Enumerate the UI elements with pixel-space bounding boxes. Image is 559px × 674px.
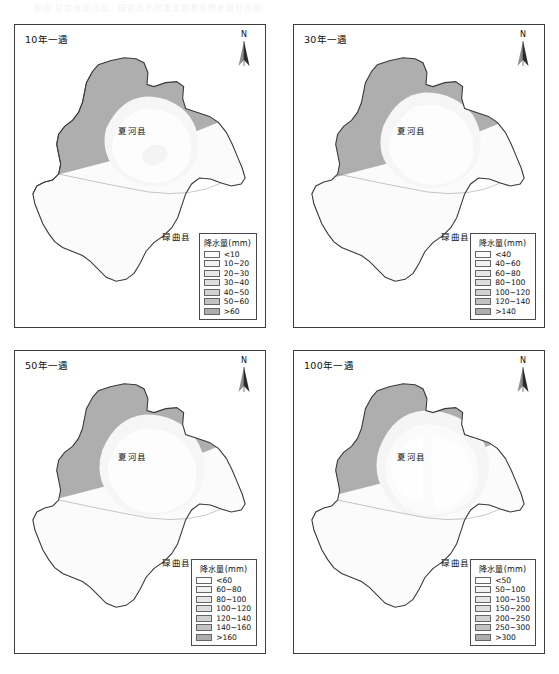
north-arrow-icon xyxy=(516,366,530,394)
legend-swatch xyxy=(475,298,491,305)
legend-row: >300 xyxy=(475,633,530,642)
legend-row: <50 xyxy=(475,576,530,585)
legend-label: 100~120 xyxy=(495,288,530,297)
legend-label: 140~160 xyxy=(216,623,251,632)
legend-row: >140 xyxy=(475,307,530,316)
legend-swatch xyxy=(196,605,212,612)
legend-label: 80~100 xyxy=(216,595,246,604)
legend-title: 降水量(mm) xyxy=(475,237,530,248)
legend-label: 20~30 xyxy=(224,269,249,278)
legend-swatch xyxy=(475,279,491,286)
legend-label: >300 xyxy=(495,633,515,642)
legend-swatch xyxy=(475,615,491,622)
legend-label: >140 xyxy=(495,307,515,316)
legend-swatch xyxy=(475,586,491,593)
legend-row: 20~30 xyxy=(204,269,251,278)
legend-swatch xyxy=(204,270,220,277)
map-panel-30yr[interactable]: 30年一遇 N 夏河县 碌曲县 降水量(mm) <40 40~60 60~80 … xyxy=(293,24,545,328)
legend-label: <10 xyxy=(224,250,240,259)
legend-title: 降水量(mm) xyxy=(204,237,251,248)
legend-row: 50~60 xyxy=(204,297,251,306)
north-arrow-icon xyxy=(237,366,251,394)
legend-swatch xyxy=(204,279,220,286)
legend-label: 60~80 xyxy=(495,269,520,278)
map-label-xiahe: 夏河县 xyxy=(397,124,426,136)
legend-swatch xyxy=(475,577,491,584)
legend-10yr: 降水量(mm) <10 10~20 20~30 30~40 40~50 50~6… xyxy=(199,233,257,321)
legend-swatch xyxy=(204,251,220,258)
map-panel-50yr[interactable]: 50年一遇 N 夏河县 碌曲县 降水量(mm) <60 60~80 80~100… xyxy=(14,350,266,654)
legend-label: 30~40 xyxy=(224,278,249,287)
north-arrow-10yr: N xyxy=(234,30,254,72)
legend-50yr: 降水量(mm) <60 60~80 80~100 100~120 120~140… xyxy=(191,559,257,647)
north-arrow-50yr: N xyxy=(234,356,254,398)
figure-container: 附图 甘南州夏河县、碌曲县不同重现期暴雨降水量分布图 xyxy=(0,0,559,674)
map-label-xiahe: 夏河县 xyxy=(397,450,426,462)
legend-row: >160 xyxy=(196,633,251,642)
north-arrow-30yr: N xyxy=(513,30,533,72)
legend-30yr: 降水量(mm) <40 40~60 60~80 80~100 100~120 1… xyxy=(470,233,536,321)
legend-row: <60 xyxy=(196,576,251,585)
panel-title-10yr: 10年一遇 xyxy=(25,32,69,46)
legend-swatch xyxy=(204,289,220,296)
map-label-xiahe: 夏河县 xyxy=(118,124,147,136)
legend-row: 60~80 xyxy=(196,585,251,594)
legend-label: 250~300 xyxy=(495,623,530,632)
legend-label: 80~100 xyxy=(495,278,525,287)
legend-row: 40~60 xyxy=(475,259,530,268)
legend-label: 40~60 xyxy=(495,259,520,268)
legend-row: 140~160 xyxy=(196,623,251,632)
legend-100yr: 降水量(mm) <50 50~100 100~150 150~200 200~2… xyxy=(470,559,536,647)
legend-row: 120~140 xyxy=(475,297,530,306)
legend-label: 40~50 xyxy=(224,288,249,297)
legend-label: 200~250 xyxy=(495,614,530,623)
north-arrow-icon xyxy=(237,40,251,68)
legend-label: 60~80 xyxy=(216,585,241,594)
legend-row: 50~100 xyxy=(475,585,530,594)
legend-swatch xyxy=(475,596,491,603)
legend-label: >60 xyxy=(224,307,240,316)
legend-row: 100~120 xyxy=(196,604,251,613)
legend-label: <50 xyxy=(495,576,511,585)
map-panel-10yr[interactable]: 10年一遇 N 夏河县 碌曲县 降水量(mm) <10 10~20 20~30 … xyxy=(14,24,266,328)
legend-swatch xyxy=(475,260,491,267)
legend-swatch xyxy=(196,596,212,603)
legend-label: <60 xyxy=(216,576,232,585)
legend-swatch xyxy=(475,289,491,296)
legend-row: 100~150 xyxy=(475,595,530,604)
legend-label: 50~100 xyxy=(495,585,525,594)
legend-label: 50~60 xyxy=(224,297,249,306)
map-panel-100yr[interactable]: 100年一遇 N 夏河县 碌曲县 降水量(mm) <50 50~100 100~… xyxy=(293,350,545,654)
legend-title: 降水量(mm) xyxy=(196,563,251,574)
north-letter: N xyxy=(234,30,254,39)
legend-row: 250~300 xyxy=(475,623,530,632)
legend-swatch xyxy=(196,577,212,584)
legend-label: 100~120 xyxy=(216,604,251,613)
legend-swatch xyxy=(196,586,212,593)
legend-swatch xyxy=(475,251,491,258)
legend-row: 100~120 xyxy=(475,288,530,297)
legend-row: 150~200 xyxy=(475,604,530,613)
legend-swatch xyxy=(196,634,212,641)
legend-swatch xyxy=(204,260,220,267)
legend-row: 40~50 xyxy=(204,288,251,297)
legend-row: 80~100 xyxy=(475,278,530,287)
legend-swatch xyxy=(204,298,220,305)
map-label-luqu: 碌曲县 xyxy=(441,556,470,568)
panel-title-50yr: 50年一遇 xyxy=(25,358,69,372)
legend-swatch xyxy=(196,624,212,631)
north-arrow-100yr: N xyxy=(513,356,533,398)
legend-row: 30~40 xyxy=(204,278,251,287)
legend-row: <40 xyxy=(475,250,530,259)
north-letter: N xyxy=(513,30,533,39)
legend-label: 120~140 xyxy=(216,614,251,623)
panel-grid: 10年一遇 N 夏河县 碌曲县 降水量(mm) <10 10~20 20~30 … xyxy=(14,24,545,664)
legend-row: 10~20 xyxy=(204,259,251,268)
legend-swatch xyxy=(204,308,220,315)
panel-title-30yr: 30年一遇 xyxy=(304,32,348,46)
map-label-xiahe: 夏河县 xyxy=(118,450,147,462)
north-letter: N xyxy=(513,356,533,365)
map-label-luqu: 碌曲县 xyxy=(162,556,191,568)
legend-row: 80~100 xyxy=(196,595,251,604)
legend-row: 60~80 xyxy=(475,269,530,278)
